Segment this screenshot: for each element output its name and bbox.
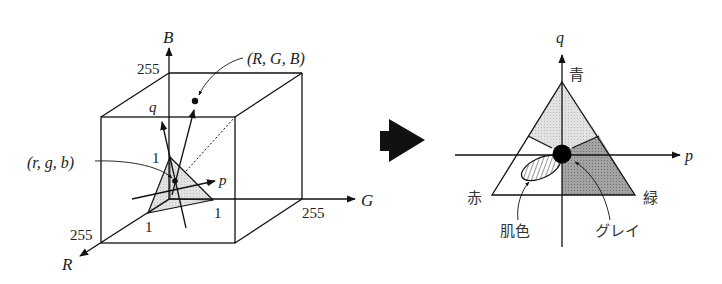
r-axis: [80, 199, 169, 256]
r-max-tick: 255: [70, 227, 93, 243]
q-axis-label: q: [149, 99, 157, 115]
unit-r-tick: 1: [145, 219, 153, 235]
skin-leader-line: [518, 182, 529, 220]
unit-g-tick: 1: [214, 205, 222, 221]
red-vertex-label: 赤: [467, 189, 482, 207]
r-axis-label: R: [61, 255, 73, 274]
unit-b-tick: 1: [152, 150, 160, 166]
skin-label: 肌色: [500, 222, 530, 240]
rgb-point: [192, 98, 198, 104]
b-max-tick: 255: [137, 61, 160, 77]
rgb-leader-line: [199, 58, 243, 95]
chromaticity-diagram: [455, 55, 680, 247]
g-max-tick: 255: [302, 205, 325, 221]
cube-edges: [101, 73, 302, 243]
gray-region: [553, 145, 572, 164]
color-space-diagram: B G R q p 255 255 255 1 1 1 (R, G, B) (r…: [0, 0, 722, 284]
blue-vertex-label: 青: [569, 66, 584, 84]
p-axis-label: p: [218, 172, 227, 188]
rgb-cube-diagram: [80, 48, 355, 256]
rgb-normalized-leader-line: [95, 161, 172, 178]
gray-diagonal: [178, 117, 235, 180]
transform-arrow-icon: [380, 119, 425, 162]
green-vertex-label: 緑: [643, 189, 658, 207]
g-axis-label: G: [361, 191, 373, 210]
normalized-point-label: (r, g, b): [27, 154, 74, 172]
gray-label: グレイ: [595, 222, 640, 240]
rgb-point-label: (R, G, B): [247, 50, 305, 68]
p-axis-label: p: [684, 147, 693, 165]
b-axis-label: B: [163, 28, 174, 47]
normalized-point: [172, 178, 178, 184]
q-axis-label: q: [556, 29, 564, 47]
